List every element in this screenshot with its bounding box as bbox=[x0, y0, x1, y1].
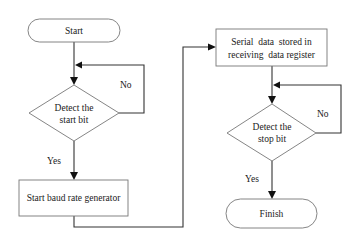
flowchart: No Yes No Yes Start Detect the start bit… bbox=[0, 0, 359, 238]
node-detect-start-label-line2: start bit bbox=[60, 115, 89, 125]
node-store: Serial data stored in receiving data reg… bbox=[216, 29, 327, 66]
arrowhead-icon bbox=[75, 62, 82, 69]
arrowhead-icon bbox=[268, 96, 276, 104]
arrowhead-icon bbox=[273, 82, 280, 89]
arrowhead-icon bbox=[268, 191, 276, 199]
node-finish-label: Finish bbox=[260, 209, 284, 219]
node-start-label: Start bbox=[65, 26, 83, 36]
node-detect-stop: Detect the stop bit bbox=[227, 104, 316, 161]
node-start: Start bbox=[28, 19, 120, 42]
edge-label-yes-start: Yes bbox=[47, 156, 61, 166]
node-detect-start: Detect the start bit bbox=[29, 85, 119, 141]
node-baud-label: Start baud rate generator bbox=[27, 193, 121, 203]
node-detect-stop-label-line1: Detect the bbox=[253, 122, 292, 132]
arrowhead-icon bbox=[208, 44, 216, 51]
node-baud: Start baud rate generator bbox=[19, 180, 128, 216]
edge-label-yes-stop: Yes bbox=[245, 174, 259, 184]
node-finish: Finish bbox=[226, 199, 317, 228]
edge-label-no-stop: No bbox=[317, 109, 329, 119]
node-detect-stop-label-line2: stop bit bbox=[258, 134, 287, 144]
arrowhead-icon bbox=[70, 77, 78, 85]
node-store-label-line1: Serial data stored in bbox=[231, 37, 312, 47]
edge-label-no-start: No bbox=[120, 80, 132, 90]
node-store-label-line2: receiving data register bbox=[228, 50, 316, 60]
node-detect-start-label-line1: Detect the bbox=[55, 103, 94, 113]
arrowhead-icon bbox=[70, 172, 78, 180]
